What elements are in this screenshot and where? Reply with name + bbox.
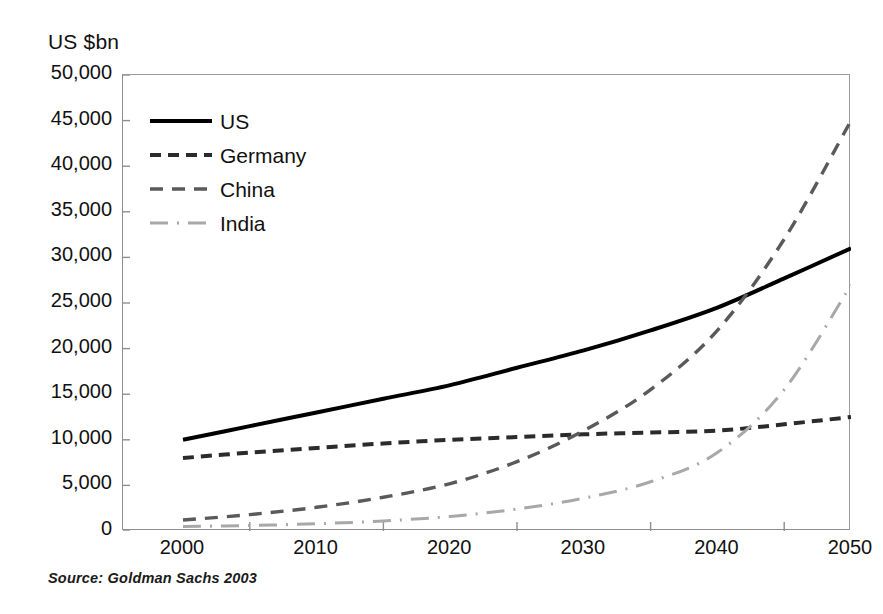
- x-tick-label: 2030: [561, 536, 606, 559]
- legend-label: India: [220, 213, 266, 234]
- y-tick-label: 15,000: [0, 380, 112, 403]
- x-tick-label: 2020: [427, 536, 472, 559]
- y-tick-label: 35,000: [0, 198, 112, 221]
- legend-label: US: [220, 111, 249, 132]
- y-tick-label: 10,000: [0, 426, 112, 449]
- legend-item-germany[interactable]: Germany: [150, 138, 360, 172]
- y-axis-tick-labels: 50,00045,00040,00035,00030,00025,00020,0…: [0, 0, 112, 614]
- legend-item-china[interactable]: China: [150, 172, 360, 206]
- x-tick-label: 2010: [293, 536, 338, 559]
- series-line-germany: [183, 417, 851, 458]
- x-tick-label: 2050: [828, 536, 873, 559]
- legend-label: Germany: [220, 145, 306, 166]
- line-chart-figure: US $bn 50,00045,00040,00035,00030,00025,…: [0, 0, 883, 614]
- legend-item-us[interactable]: US: [150, 104, 360, 138]
- y-tick-label: 30,000: [0, 243, 112, 266]
- y-tick-label: 5,000: [0, 471, 112, 494]
- legend-swatch-icon: [150, 216, 212, 230]
- legend-swatch-icon: [150, 182, 212, 196]
- source-note: Source: Goldman Sachs 2003: [48, 570, 257, 586]
- chart-legend: USGermanyChinaIndia: [150, 104, 360, 240]
- legend-swatch-icon: [150, 148, 212, 162]
- y-tick-label: 40,000: [0, 152, 112, 175]
- x-tick-label: 2040: [694, 536, 739, 559]
- legend-swatch-icon: [150, 114, 212, 128]
- legend-label: China: [220, 179, 275, 200]
- series-line-india: [183, 285, 851, 527]
- x-axis-tick-labels: 200020102020203020402050: [0, 536, 883, 566]
- y-tick-label: 25,000: [0, 289, 112, 312]
- y-tick-label: 50,000: [0, 61, 112, 84]
- series-line-us: [183, 248, 851, 440]
- x-tick-label: 2000: [160, 536, 205, 559]
- y-tick-label: 45,000: [0, 107, 112, 130]
- legend-item-india[interactable]: India: [150, 206, 360, 240]
- y-tick-label: 20,000: [0, 335, 112, 358]
